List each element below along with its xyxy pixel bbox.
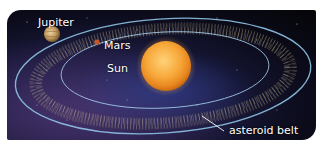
solar-system-illustration: Jupiter Mars Sun asteroid belt xyxy=(7,10,316,140)
label-mars: Mars xyxy=(104,40,131,52)
mars xyxy=(94,39,99,44)
solar-system-graphic xyxy=(7,10,316,140)
sun xyxy=(141,41,191,91)
label-asteroid-belt: asteroid belt xyxy=(229,125,298,137)
label-jupiter: Jupiter xyxy=(38,17,74,29)
label-sun: Sun xyxy=(107,63,128,75)
